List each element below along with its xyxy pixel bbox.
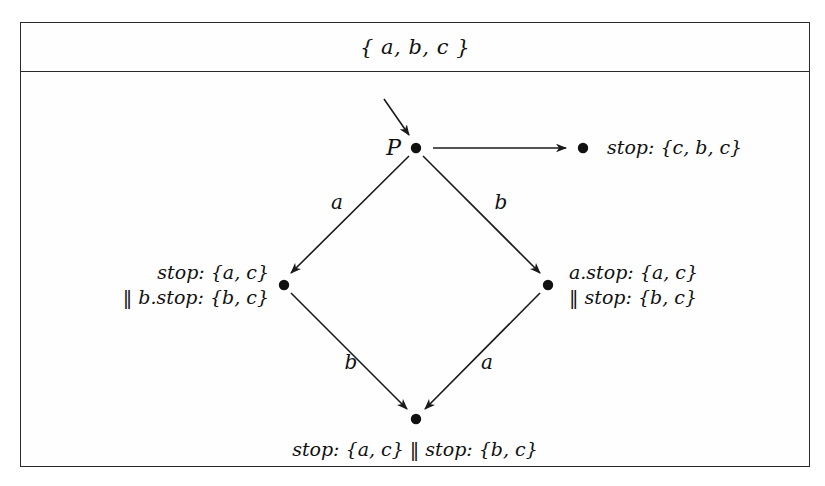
alphabet-header: { a, b, c } (21, 23, 809, 72)
bottom-state-node (411, 414, 421, 424)
initial-state-node (411, 143, 421, 153)
right-state-label-line2: ‖ stop: {b, c} (569, 285, 809, 309)
left-state-label-line2: ‖ b.stop: {b, c} (39, 285, 269, 309)
process-name-label: P (321, 134, 401, 162)
edge-label-b-top-right: b (487, 190, 515, 216)
edge-label-a-bottom-right: a (473, 350, 501, 376)
left-state-label-line1: stop: {a, c} (39, 260, 269, 284)
figure-frame: { a, b, c } (20, 22, 810, 467)
stop-state-node (578, 143, 588, 153)
transition-graph: P stop: {c, b, c} a b b a stop: {a, c} ‖… (21, 72, 809, 466)
edge-top-to-right (423, 156, 540, 273)
edge-entry-arrow (384, 99, 409, 135)
right-state-node (543, 280, 553, 290)
edge-label-b-bottom-left: b (337, 350, 365, 376)
left-state-node (279, 280, 289, 290)
bottom-state-label: stop: {a, c} ‖ stop: {b, c} (115, 437, 715, 461)
edge-label-a-top-left: a (323, 190, 351, 216)
stop-state-label: stop: {c, b, c} (607, 135, 817, 159)
right-state-label-line1: a.stop: {a, c} (569, 260, 809, 284)
alphabet-set-label: { a, b, c } (360, 35, 470, 59)
